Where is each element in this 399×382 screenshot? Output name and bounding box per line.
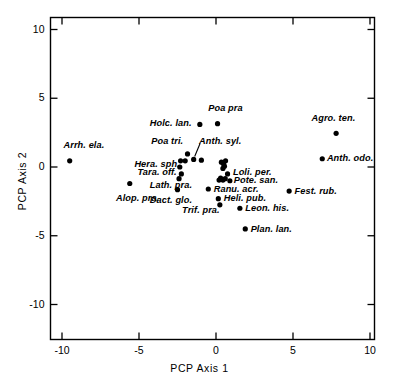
data-point-marker [237,206,242,211]
data-point-marker [206,186,211,191]
point-label: Ranu. acr. [214,184,259,194]
y-tick-label: 10 [0,23,45,35]
data-point-marker [191,157,196,162]
x-tick-label: -10 [22,344,102,356]
point-label: Trif. pra. [182,205,220,215]
plot-canvas [0,0,399,382]
x-tick-label: 0 [176,344,256,356]
data-point-marker [243,226,248,231]
x-axis-title: PCP Axis 1 [0,362,399,374]
data-point-marker [223,176,228,181]
data-point-marker [334,131,339,136]
x-tick-label: -5 [99,344,179,356]
point-label: Holc. lan. [150,118,192,128]
data-point-marker [127,181,132,186]
y-axis-title: PCP Axis 2 [16,121,28,241]
point-label: Anth. odo. [327,153,373,163]
point-label: Dact. glo. [150,195,192,205]
point-label: Leon. his. [245,203,289,213]
point-label: Plan. lan. [251,224,292,234]
point-label: Arrh. ela. [64,140,105,150]
data-point-marker [179,171,184,176]
axis-frame [51,18,375,340]
data-point-marker [199,158,204,163]
data-point-marker [220,166,225,171]
data-point-marker [216,196,221,201]
data-point-marker [215,121,220,126]
y-tick-label: 5 [0,91,45,103]
data-point-marker [225,171,230,176]
point-label: Heli. pub. [224,193,266,203]
data-point-marker [67,158,72,163]
data-point-marker [185,151,190,156]
point-label: Poa tri. [151,136,183,146]
data-point-marker [320,156,325,161]
x-tick-label: 10 [330,344,399,356]
data-point-marker [183,158,188,163]
point-label: Poa pra [208,103,242,113]
point-label: Anth. syl. [199,136,241,146]
plot-frame [51,18,375,340]
scatter-plot-figure: -10-50510-10-50510 Arrh. ela.Holc. lan.P… [0,0,399,382]
point-label: Agro. ten. [311,113,355,123]
point-label: Lath. pra. [150,180,192,190]
data-point-marker [197,122,202,127]
point-label: Fest. rub. [295,186,337,196]
data-point-marker [287,188,292,193]
point-label: Tara. off. [137,167,176,177]
y-tick-label: -10 [0,298,45,310]
tick-marks [51,18,375,340]
data-point-marker [227,178,232,183]
data-point-marker [223,158,228,163]
x-tick-label: 5 [253,344,333,356]
data-point-marker [216,177,221,182]
